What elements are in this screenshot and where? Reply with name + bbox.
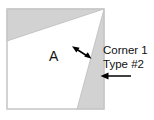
left-pointing-arrow — [101, 72, 132, 79]
corner-1-label: Corner 1 — [103, 45, 148, 57]
corner-type-figure: A Corner 1 Type #2 — [0, 0, 154, 120]
type-2-label: Type #2 — [103, 59, 144, 71]
region-a-label: A — [49, 49, 58, 63]
